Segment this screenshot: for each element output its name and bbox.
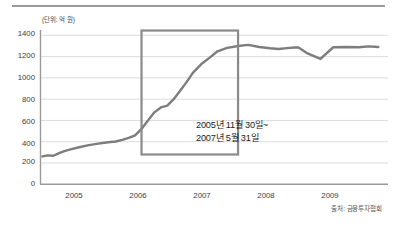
date-range-annotation: 2005년 11월 30일~ 2007년 5월 31일 — [196, 119, 268, 144]
annotation-line-1: 2005년 11월 30일~ — [196, 119, 268, 132]
plot-area — [0, 0, 396, 228]
chart-figure: (단위: 억 원) 1400 1200 1000 800 600 400 200… — [0, 0, 396, 228]
source-note: 출처: 금융투자협회 — [331, 203, 382, 213]
annotation-line-2: 2007년 5월 31일 — [196, 132, 268, 145]
